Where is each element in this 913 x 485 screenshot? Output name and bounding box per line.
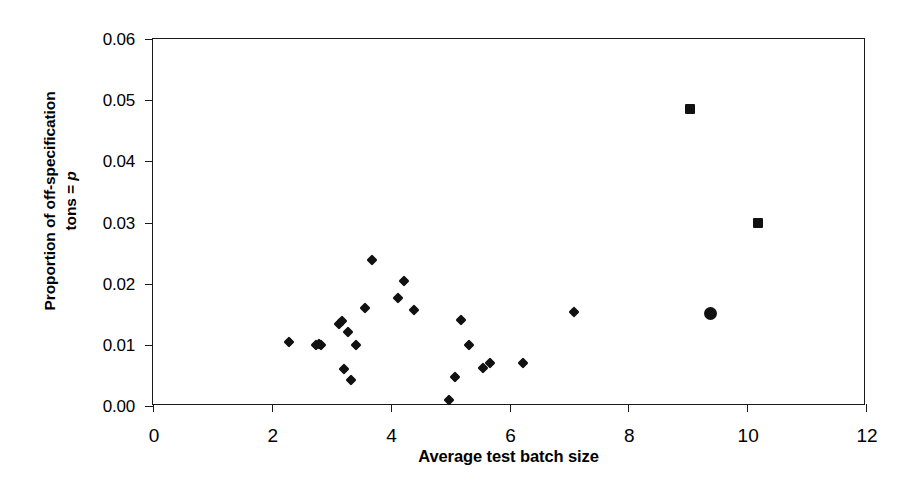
y-tick-mark: 0.02 bbox=[145, 284, 153, 285]
y-tick-label: 0.01 bbox=[103, 336, 135, 356]
data-point-diamond bbox=[449, 371, 460, 382]
y-axis-title-container: Proportion of off-specification tons = p bbox=[0, 0, 96, 420]
y-axis-title: Proportion of off-specification tons = p bbox=[39, 21, 81, 381]
x-tick-label: 8 bbox=[624, 425, 635, 447]
x-tick-mark: 10 bbox=[747, 404, 748, 412]
data-point-diamond bbox=[398, 276, 409, 287]
y-axis-title-line2: tons = p bbox=[60, 21, 81, 381]
x-tick-mark: 6 bbox=[510, 404, 511, 412]
x-tick-mark: 0 bbox=[153, 404, 154, 412]
y-axis-title-variable-p: p bbox=[62, 171, 79, 180]
data-point-diamond bbox=[455, 315, 466, 326]
scatter-plot-figure: Proportion of off-specification tons = p… bbox=[0, 0, 913, 485]
y-tick-mark: 0.04 bbox=[145, 161, 153, 162]
y-tick-label: 0.04 bbox=[103, 152, 135, 172]
y-tick-label: 0.06 bbox=[103, 30, 135, 50]
plot-area: 0.000.010.020.030.040.050.06 024681012 bbox=[152, 38, 865, 405]
y-tick-label: 0.02 bbox=[103, 275, 135, 295]
x-tick-mark: 8 bbox=[628, 404, 629, 412]
data-point-diamond bbox=[359, 302, 370, 313]
x-axis-title: Average test batch size bbox=[152, 447, 865, 466]
data-point-diamond bbox=[463, 340, 474, 351]
x-tick-label: 2 bbox=[268, 425, 279, 447]
data-point-diamond bbox=[409, 304, 420, 315]
x-tick-mark: 12 bbox=[866, 404, 867, 412]
data-point-diamond bbox=[339, 364, 350, 375]
x-tick-label: 0 bbox=[149, 425, 160, 447]
y-tick-mark: 0.01 bbox=[145, 345, 153, 346]
y-tick-mark: 0.03 bbox=[145, 223, 153, 224]
y-tick-mark: 0.00 bbox=[145, 406, 153, 407]
x-tick-label: 10 bbox=[738, 425, 759, 447]
y-axis-title-line2-prefix: tons = bbox=[62, 181, 79, 231]
data-point-square bbox=[685, 104, 695, 114]
y-tick-label: 0.03 bbox=[103, 214, 135, 234]
x-tick-label: 4 bbox=[386, 425, 397, 447]
data-point-diamond bbox=[367, 254, 378, 265]
y-axis-title-line1: Proportion of off-specification bbox=[39, 21, 60, 381]
x-tick-label: 6 bbox=[505, 425, 516, 447]
data-point-diamond bbox=[569, 307, 580, 318]
data-point-diamond bbox=[517, 358, 528, 369]
data-point-diamond bbox=[350, 339, 361, 350]
x-tick-mark: 4 bbox=[391, 404, 392, 412]
data-point-diamond bbox=[342, 326, 353, 337]
y-tick-mark: 0.06 bbox=[145, 39, 153, 40]
data-point-square bbox=[753, 218, 763, 228]
data-point-circle bbox=[704, 307, 717, 320]
data-point-diamond bbox=[392, 293, 403, 304]
y-tick-label: 0.00 bbox=[103, 397, 135, 417]
data-point-diamond bbox=[283, 336, 294, 347]
x-tick-label: 12 bbox=[856, 425, 877, 447]
data-point-diamond bbox=[443, 394, 454, 405]
data-point-diamond bbox=[345, 375, 356, 386]
y-tick-label: 0.05 bbox=[103, 91, 135, 111]
y-tick-mark: 0.05 bbox=[145, 100, 153, 101]
x-tick-mark: 2 bbox=[272, 404, 273, 412]
